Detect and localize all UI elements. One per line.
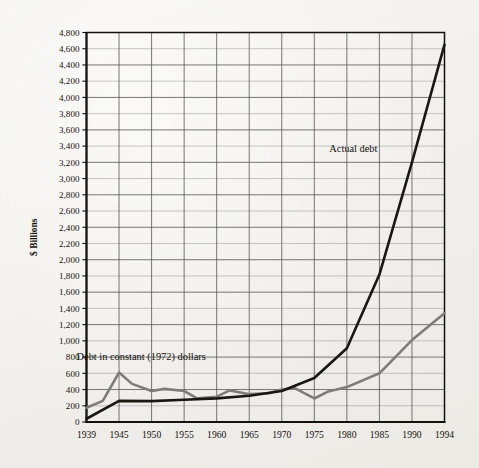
x-axis-tick-label: 1980 bbox=[337, 429, 356, 440]
y-axis-tick-label: 1,000 bbox=[59, 336, 80, 346]
y-axis-tick-label: 2,800 bbox=[59, 190, 80, 200]
x-axis-tick-labels: 1939194519501955196019651970197519801985… bbox=[77, 429, 454, 440]
y-axis-tick-label: 200 bbox=[66, 401, 80, 411]
y-axis-tick-label: 600 bbox=[66, 369, 80, 379]
y-axis-tick-label: 4,200 bbox=[59, 76, 80, 86]
horizontal-gridlines bbox=[87, 33, 445, 406]
y-axis-tick-label: 1,600 bbox=[59, 287, 80, 297]
y-axis-tick-label: 4,600 bbox=[59, 44, 80, 54]
y-axis-title: $ Billions bbox=[29, 218, 39, 256]
series-annotation-label: Actual debt bbox=[329, 143, 377, 154]
y-axis-tick-label: 3,000 bbox=[59, 174, 80, 184]
x-axis-tick-label: 1975 bbox=[305, 429, 324, 440]
y-axis-tick-label: 3,400 bbox=[59, 141, 80, 151]
y-axis-tick-label: 3,800 bbox=[59, 109, 80, 119]
x-axis-tick-label: 1945 bbox=[109, 429, 128, 440]
x-axis-tick-label: 1985 bbox=[370, 429, 389, 440]
x-axis-tick-label: 1994 bbox=[435, 429, 454, 440]
y-axis-tick-label: 4,000 bbox=[59, 93, 80, 103]
y-axis-tick-label: 2,200 bbox=[59, 239, 80, 249]
y-axis-tick-label: 2,600 bbox=[59, 206, 80, 216]
y-axis-tick-label: 1,800 bbox=[59, 271, 80, 281]
y-axis-tick-label: 1,200 bbox=[59, 320, 80, 330]
y-axis-tick-label: 400 bbox=[66, 385, 80, 395]
y-axis-tick-label: 1,400 bbox=[59, 304, 80, 314]
x-axis-tick-label: 1950 bbox=[142, 429, 161, 440]
chart-figure: 02004006008001,0001,2001,4001,6001,8002,… bbox=[0, 0, 479, 468]
series-annotation-label: Debt in constant (1972) dollars bbox=[77, 351, 206, 363]
x-axis-tick-label: 1955 bbox=[175, 429, 194, 440]
x-axis-tick-label: 1965 bbox=[240, 429, 259, 440]
debt-line-chart: 02004006008001,0001,2001,4001,6001,8002,… bbox=[0, 0, 479, 468]
y-axis-tick-label: 3,200 bbox=[59, 158, 80, 168]
axis-titles: $ Billions bbox=[29, 218, 39, 256]
series-annotations: Actual debtDebt in constant (1972) dolla… bbox=[77, 143, 378, 364]
y-axis-tick-label: 2,400 bbox=[59, 223, 80, 233]
y-axis-tick-labels: 02004006008001,0001,2001,4001,6001,8002,… bbox=[59, 28, 80, 428]
x-axis-tick-label: 1960 bbox=[207, 429, 226, 440]
y-axis-tick-label: 4,400 bbox=[59, 60, 80, 70]
y-axis-tick-label: 2,000 bbox=[59, 255, 80, 265]
data-series-lines bbox=[87, 45, 445, 419]
x-axis-tick-label: 1970 bbox=[272, 429, 291, 440]
y-axis-tick-label: 3,600 bbox=[59, 125, 80, 135]
y-axis-tick-label: 0 bbox=[75, 417, 80, 427]
x-axis-tick-label: 1990 bbox=[402, 429, 421, 440]
y-axis-tick-label: 4,800 bbox=[59, 28, 80, 38]
x-axis-tick-label: 1939 bbox=[77, 429, 96, 440]
